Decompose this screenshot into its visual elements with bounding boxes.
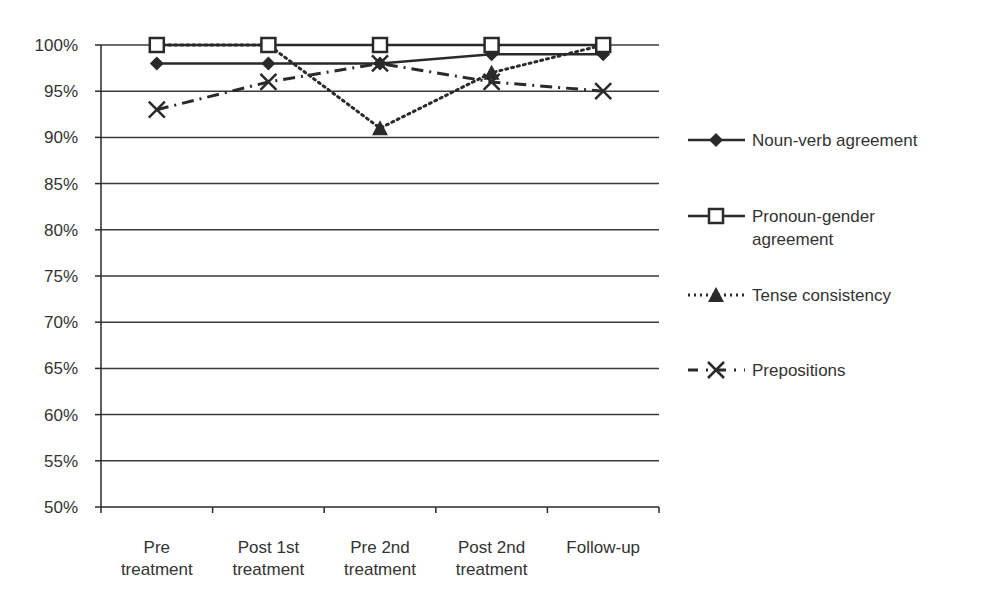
y-tick-label: 65% (44, 359, 78, 378)
y-tick-label: 95% (44, 82, 78, 101)
diamond-marker-icon (261, 56, 275, 70)
diamond-marker-icon (150, 56, 164, 70)
triangle-marker-icon (708, 287, 724, 302)
series-pronoun-gender-agreement (150, 38, 610, 52)
legend-item: Prepositions (688, 361, 846, 380)
legend: Noun-verb agreementPronoun-genderagreeme… (688, 131, 918, 380)
square-marker-icon (150, 38, 164, 52)
x-tick-label: Follow-up (566, 538, 640, 557)
y-tick-label: 85% (44, 175, 78, 194)
legend-item: Pronoun-genderagreement (688, 207, 875, 249)
y-tick-label: 50% (44, 498, 78, 517)
line-chart: 50%55%60%65%70%75%80%85%90%95%100%Pretre… (0, 0, 994, 614)
legend-label: Noun-verb agreement (752, 131, 918, 150)
legend-item: Tense consistency (688, 286, 891, 305)
legend-label: Tense consistency (752, 286, 891, 305)
y-tick-label: 55% (44, 452, 78, 471)
y-tick-label: 75% (44, 267, 78, 286)
y-tick-label: 100% (35, 36, 78, 55)
triangle-marker-icon (372, 120, 388, 135)
x-tick-label: Pretreatment (121, 538, 193, 579)
square-marker-icon (709, 209, 723, 223)
legend-item: Noun-verb agreement (688, 131, 918, 150)
square-marker-icon (373, 38, 387, 52)
square-marker-icon (485, 38, 499, 52)
legend-label: Prepositions (752, 361, 846, 380)
square-marker-icon (596, 38, 610, 52)
legend-label: Pronoun-genderagreement (752, 207, 875, 249)
x-tick-label: Pre 2ndtreatment (344, 538, 416, 579)
square-marker-icon (261, 38, 275, 52)
y-tick-label: 70% (44, 313, 78, 332)
x-tick-label: Post 1sttreatment (232, 538, 304, 579)
gridlines (101, 45, 659, 461)
y-tick-label: 60% (44, 406, 78, 425)
y-tick-label: 80% (44, 221, 78, 240)
x-tick-label: Post 2ndtreatment (456, 538, 528, 579)
y-tick-label: 90% (44, 128, 78, 147)
diamond-marker-icon (709, 133, 723, 147)
